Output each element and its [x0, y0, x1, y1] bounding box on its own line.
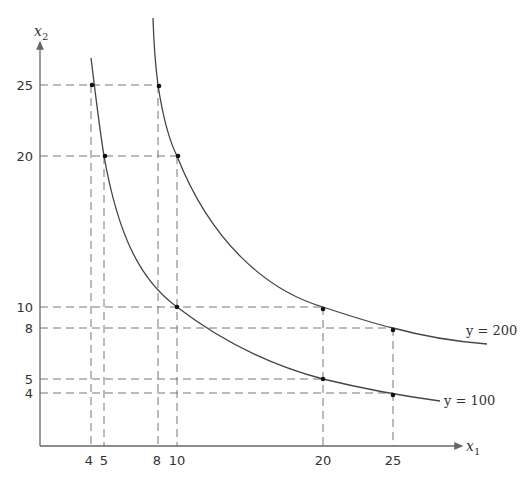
axes: [40, 42, 462, 446]
guide-lines: [40, 85, 393, 446]
svg-text:8: 8: [153, 453, 161, 468]
curve-label-200: y = 200: [465, 323, 517, 338]
svg-text:5: 5: [25, 372, 33, 387]
svg-text:4: 4: [25, 386, 33, 401]
isoquant-y200: [153, 18, 487, 344]
x-axis-label: x1: [466, 438, 480, 457]
x-tick-labels: 4 5 8 10 20 25: [85, 453, 401, 468]
y-tick-labels: 25 20 10 8 5 4: [16, 78, 33, 401]
isoquant-chart: 25 20 10 8 5 4 4 5 8 10 20 25 x2 x1 y = …: [0, 0, 524, 486]
svg-text:5: 5: [100, 453, 108, 468]
y-axis-label: x2: [34, 23, 48, 42]
svg-text:25: 25: [16, 78, 33, 93]
svg-text:20: 20: [16, 149, 33, 164]
data-points: [90, 83, 396, 398]
svg-text:10: 10: [169, 453, 186, 468]
svg-text:4: 4: [85, 453, 93, 468]
svg-text:25: 25: [385, 453, 402, 468]
svg-text:10: 10: [16, 300, 33, 315]
svg-text:20: 20: [315, 453, 332, 468]
svg-text:8: 8: [25, 321, 33, 336]
isoquant-y100: [91, 58, 440, 401]
curve-label-100: y = 100: [443, 393, 495, 408]
